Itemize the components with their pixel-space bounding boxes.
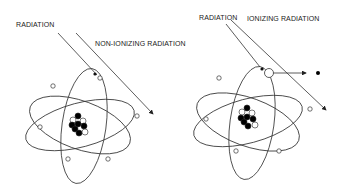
left-nucleus [69, 113, 88, 136]
left-electron-hit [93, 72, 96, 75]
right-incoming-ray [226, 24, 260, 67]
ionized-orbital-site [265, 69, 274, 78]
electron [135, 114, 139, 118]
electron [98, 76, 102, 80]
electron [204, 117, 208, 121]
radiation-diagram [0, 0, 352, 192]
right-passing-ray [231, 20, 326, 110]
electron [38, 125, 42, 129]
electron [277, 149, 281, 153]
right-nucleus [238, 105, 258, 129]
electron [308, 107, 312, 111]
right-orbit-1 [189, 81, 307, 163]
left-electrons [38, 76, 139, 161]
left-atom [20, 33, 153, 186]
electron [234, 149, 238, 153]
electron [51, 84, 55, 88]
right-atom [188, 20, 326, 183]
right-electrons [204, 76, 312, 153]
ejected-electron [316, 71, 320, 75]
electron [217, 76, 221, 80]
right-orbit-3 [222, 63, 281, 182]
electron [106, 157, 110, 161]
electron [66, 157, 70, 161]
right-electron-hit [260, 67, 263, 70]
